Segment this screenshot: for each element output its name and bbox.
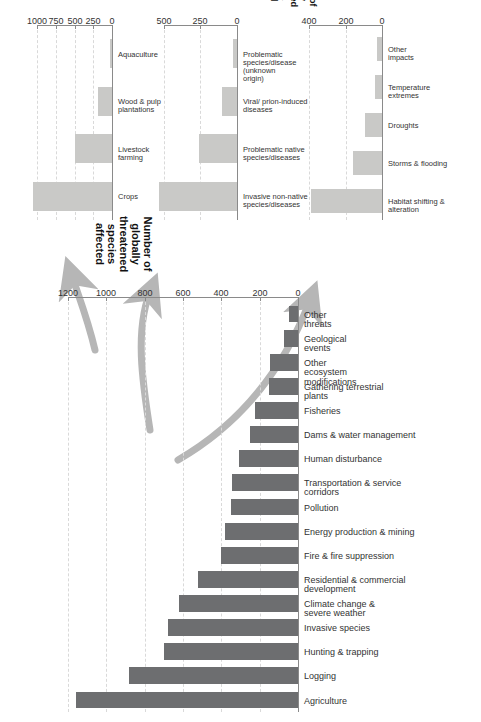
value-axis-line (37, 25, 112, 26)
category-label: Dams & water management (304, 431, 416, 440)
category-label: Geological events (304, 335, 347, 354)
bar (159, 182, 237, 211)
category-axis-line (112, 25, 113, 220)
bar (289, 306, 298, 323)
bar (198, 571, 298, 588)
bar (284, 330, 298, 347)
category-label: Problematic species/disease (unknown ori… (243, 51, 296, 83)
bar (110, 39, 112, 68)
bar (168, 619, 298, 636)
bar (239, 450, 298, 467)
category-label: Invasive species (304, 624, 370, 633)
category-label: Transportation & service corridors (304, 479, 401, 498)
category-label: Climate change & severe weather (304, 600, 375, 619)
category-axis-line (237, 25, 238, 220)
bar (199, 134, 237, 163)
category-label: Problematic native species/diseases (243, 146, 305, 162)
category-label: Fisheries (304, 407, 341, 416)
bar (225, 523, 298, 540)
inset-chart-agriculture: 02505007501000CropsLivestock farmingWood… (30, 30, 125, 220)
category-label: Fire & fire suppression (304, 552, 394, 561)
category-axis-line (382, 25, 383, 220)
bar (377, 37, 382, 61)
category-label: Residential & commercial development (304, 576, 406, 595)
gridline (145, 302, 146, 712)
bar (98, 87, 112, 116)
category-axis-line (298, 297, 299, 712)
bar (179, 595, 298, 612)
bar (232, 474, 298, 491)
bar (33, 182, 112, 211)
category-label: Temperature extremes (388, 84, 442, 100)
category-label: Energy production & mining (304, 528, 415, 537)
inset-chart-climate-change: 0200400Habitat shifting & alterationStor… (300, 30, 395, 220)
bar (255, 402, 298, 419)
bar (250, 426, 298, 443)
category-label: Viral/ prion-induced diseases (243, 98, 307, 114)
category-label: Other impacts (388, 46, 414, 62)
inset-chart-invasive-species: 0250500Invasive non-native species/disea… (155, 30, 250, 220)
category-label: Storms & flooding (388, 160, 447, 168)
bar (164, 643, 298, 660)
bar (231, 499, 298, 516)
bar (353, 151, 382, 175)
axis-title: Number of globally threatened species af… (268, 0, 317, 7)
bar (76, 692, 298, 709)
bar (311, 189, 382, 213)
bar (233, 39, 237, 68)
category-label: Aquaculture (118, 51, 158, 59)
category-label: Habitat shifting & alteration (388, 198, 445, 214)
category-label: Hunting & trapping (304, 648, 379, 657)
category-label: Agriculture (304, 697, 347, 706)
value-axis-line (309, 25, 382, 26)
category-label: Invasive non-native species/diseases (243, 193, 308, 209)
category-label: Crops (118, 193, 138, 201)
category-label: Other ecosystem modifications (304, 359, 361, 387)
category-label: Droughts (388, 122, 418, 130)
category-label: Pollution (304, 504, 339, 513)
main-chart: 020040060080010001200AgricultureLoggingH… (68, 302, 398, 712)
value-axis-line (164, 25, 237, 26)
bar (222, 87, 237, 116)
gridline (106, 302, 107, 712)
bar (270, 354, 298, 371)
category-label: Other threats (304, 311, 332, 330)
bar (221, 547, 298, 564)
bar (375, 75, 382, 99)
gridline (68, 302, 69, 712)
bar (129, 667, 298, 684)
axis-title: Number of globally threatened species af… (94, 216, 153, 272)
category-label: Human disturbance (304, 455, 382, 464)
category-label: Livestock farming (118, 146, 149, 162)
bar (75, 134, 112, 163)
bar (365, 113, 382, 137)
value-axis-line (68, 297, 298, 298)
bar (269, 378, 298, 395)
category-label: Logging (304, 672, 336, 681)
